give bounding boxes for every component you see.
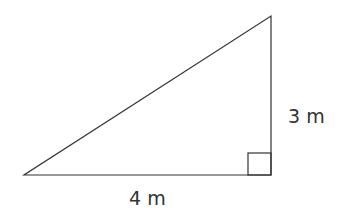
right-angle-marker — [248, 153, 271, 175]
vertical-side-label: 3 m — [288, 107, 325, 126]
horizontal-side-label: 4 m — [129, 189, 166, 208]
right-triangle — [24, 16, 271, 175]
